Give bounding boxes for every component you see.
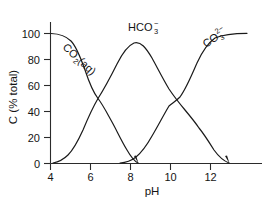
y-tick-label-0: 0 <box>34 158 40 170</box>
y-tick-label-100: 100 <box>22 28 40 40</box>
x-tick-label-12: 12 <box>204 171 216 183</box>
carbonate-speciation-chart: 0 20 40 60 80 100 4 6 8 10 12 pH C (% to… <box>0 0 274 198</box>
y-tick-label-20: 20 <box>28 132 40 144</box>
y-tick-label-80: 80 <box>28 54 40 66</box>
series-label-hco3-superscript: − <box>154 19 159 28</box>
x-tick-label-6: 6 <box>87 171 93 183</box>
x-tick-label-4: 4 <box>47 171 53 183</box>
x-axis-title: pH <box>145 185 160 197</box>
series-label-hco3-subscript: 3 <box>154 27 158 36</box>
y-tick-label-60: 60 <box>28 80 40 92</box>
y-axis-title: C (% total) <box>7 70 19 124</box>
y-tick-label-40: 40 <box>28 106 40 118</box>
x-tick-label-10: 10 <box>164 171 176 183</box>
chart-figure: 0 20 40 60 80 100 4 6 8 10 12 pH C (% to… <box>0 0 274 198</box>
series-label-hco3-base: HCO <box>128 21 153 33</box>
x-tick-label-8: 8 <box>127 171 133 183</box>
